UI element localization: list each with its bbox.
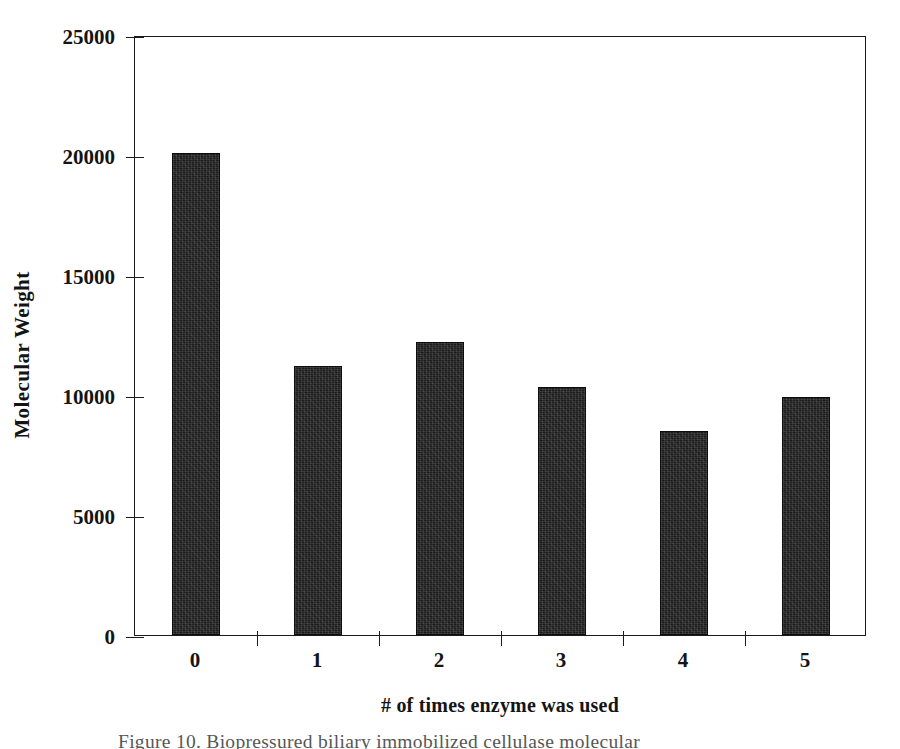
bar-0 bbox=[172, 153, 220, 635]
bar-1 bbox=[294, 366, 342, 635]
y-tick-label-0: 0 bbox=[105, 625, 116, 650]
x-tick-label-5: 5 bbox=[765, 648, 845, 673]
y-tick-label-20000: 20000 bbox=[63, 145, 116, 170]
plot-area: 0500010000150002000025000 bbox=[134, 36, 866, 636]
bar-3 bbox=[538, 387, 586, 635]
x-tick-label-1: 1 bbox=[277, 648, 357, 673]
y-tick-label-25000: 25000 bbox=[63, 25, 116, 50]
bar-chart-figure: Molecular Weight 05000100001500020000250… bbox=[0, 0, 900, 749]
y-tick-label-5000: 5000 bbox=[73, 505, 115, 530]
y-axis-title: Molecular Weight bbox=[10, 215, 40, 495]
y-tick-0: 0 bbox=[126, 637, 144, 638]
bar-4 bbox=[660, 431, 708, 635]
figure-caption: Figure 10. Biopressured biliary immobili… bbox=[118, 731, 818, 749]
bar-2 bbox=[416, 342, 464, 635]
x-tick-label-3: 3 bbox=[521, 648, 601, 673]
x-tick-label-0: 0 bbox=[155, 648, 235, 673]
x-tick-label-4: 4 bbox=[643, 648, 723, 673]
bar-series bbox=[135, 37, 865, 635]
y-tick-label-10000: 10000 bbox=[63, 385, 116, 410]
x-axis-title: # of times enzyme was used bbox=[134, 694, 866, 717]
x-tick-label-2: 2 bbox=[399, 648, 479, 673]
bar-5 bbox=[782, 397, 830, 635]
y-tick-label-15000: 15000 bbox=[63, 265, 116, 290]
